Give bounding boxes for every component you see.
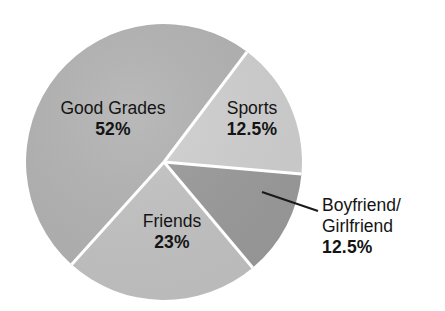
slice-label-boyfriend-girlfriend-name-line2: Girlfriend — [322, 216, 444, 237]
slice-label-boyfriend-girlfriend-name-line1: Boyfriend/ — [322, 195, 444, 216]
pie-chart-graphic — [0, 0, 445, 311]
slice-label-boyfriend-girlfriend: Boyfriend/ Girlfriend 12.5% — [322, 195, 444, 258]
pie-chart-page: Good Grades 52% Sports 12.5% Friends 23%… — [0, 0, 445, 311]
slice-label-boyfriend-girlfriend-value: 12.5% — [322, 237, 444, 258]
